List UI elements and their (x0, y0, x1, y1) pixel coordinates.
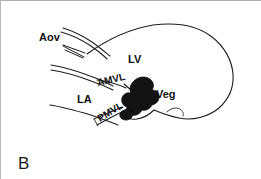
posterior-annulus-notch-icon (167, 108, 183, 116)
heart-longaxis-diagram: Aov LV LA AMVL PMVL Veg B (1, 1, 261, 179)
label-vegetation: Veg (156, 88, 176, 100)
figure-panel-b: Aov LV LA AMVL PMVL Veg B (0, 0, 261, 179)
label-left-ventricle: LV (128, 53, 142, 65)
pmvl-hinge-icon (94, 119, 98, 126)
label-posterior-mitral-leaflet: PMVL (95, 100, 124, 124)
label-left-atrium: LA (77, 93, 92, 105)
panel-letter: B (18, 154, 29, 173)
label-aortic-valve: Aov (39, 31, 61, 43)
